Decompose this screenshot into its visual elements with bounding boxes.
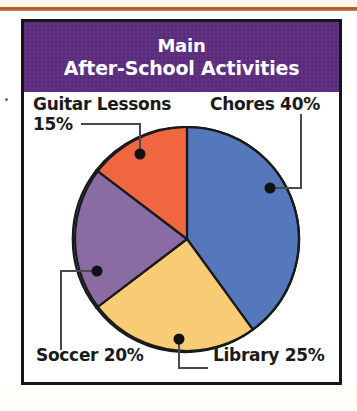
pie-label-soccer: Soccer 20% — [36, 345, 144, 365]
leader-dot-guitar-lessons — [135, 149, 146, 160]
chart-title-line-1: Main — [157, 34, 205, 57]
right-margin — [342, 19, 357, 385]
chart-title-line-2: After-School Activities — [64, 57, 300, 80]
pie-label-guitar-lessons: Guitar Lessons15% — [33, 94, 171, 134]
chart-title-banner: Main After-School Activities — [24, 22, 339, 92]
figure-page: Main After-School Activities — [0, 0, 357, 411]
chart-frame: Main After-School Activities — [21, 19, 342, 385]
pie-label-guitar-lessons-line1: Guitar Lessons — [33, 94, 171, 114]
leader-dot-library — [174, 334, 185, 345]
left-margin — [0, 19, 21, 385]
pie-label-chores: Chores 40% — [210, 94, 320, 114]
pie-chart-svg — [24, 92, 339, 382]
page-top-margin — [0, 0, 357, 7]
pie-chart-plot-area: Guitar Lessons15% Chores 40% Soccer 20% … — [24, 92, 339, 382]
bullet-dot-icon — [5, 98, 8, 101]
rule-gap — [0, 11, 357, 19]
leader-dot-soccer — [92, 266, 103, 277]
pie-label-guitar-lessons-line2: 15% — [33, 114, 73, 134]
leader-dot-chores — [265, 183, 276, 194]
pie-label-library: Library 25% — [213, 345, 324, 365]
bottom-margin — [0, 385, 357, 411]
